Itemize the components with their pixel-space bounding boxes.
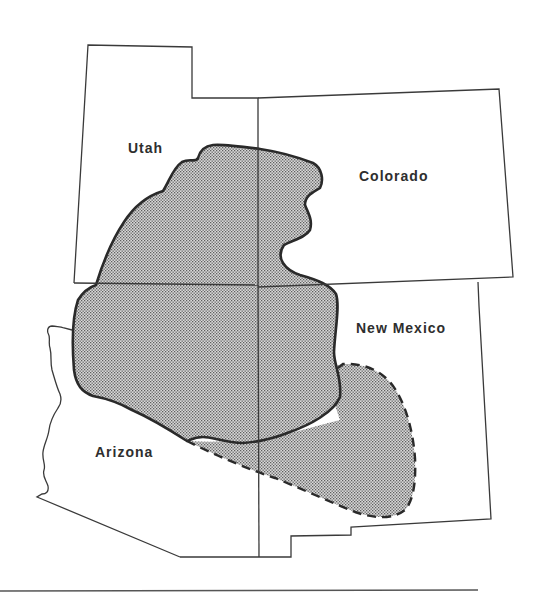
label-new-mexico: New Mexico <box>356 320 446 336</box>
label-arizona: Arizona <box>95 444 153 460</box>
four-corners-map: Utah Colorado New Mexico Arizona <box>0 0 537 600</box>
label-utah: Utah <box>128 140 163 156</box>
label-colorado: Colorado <box>359 168 428 184</box>
bottom-rule <box>0 590 478 591</box>
solid-region <box>73 145 341 443</box>
